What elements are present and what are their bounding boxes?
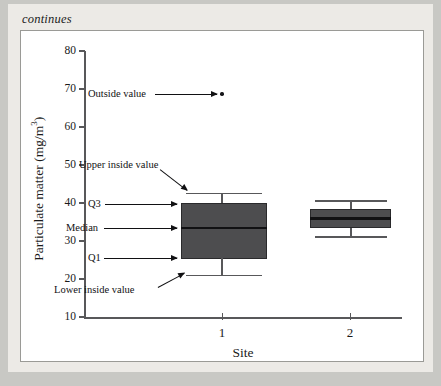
- y-tick-60: [79, 126, 85, 127]
- y-tick-label-30-wrap: 30: [46, 235, 76, 247]
- annotation-label-median: Median: [66, 223, 98, 234]
- y-tick-label-70: 70: [50, 83, 76, 95]
- y-axis-title-main: Particulate matter (mg/m: [31, 126, 46, 261]
- x-tick-2: [350, 313, 351, 320]
- y-tick-label-30: 30: [50, 235, 76, 247]
- x-axis-line: [84, 317, 402, 319]
- y-tick-label-50-wrap: 50: [46, 159, 76, 171]
- box-site-1: [181, 203, 267, 259]
- y-axis-title-exponent: 3: [29, 121, 39, 126]
- median-line-site-2: [310, 217, 391, 219]
- upper-whisker-cap-site-1: [186, 193, 262, 195]
- annotation-label-q3: Q3: [88, 199, 101, 210]
- median-line-site-1: [181, 227, 267, 229]
- outlier-point-site-1: [220, 92, 223, 95]
- y-tick-20: [79, 278, 85, 279]
- x-tick-label-1: 1: [202, 325, 242, 341]
- y-tick-label-70-wrap: 70: [46, 83, 76, 95]
- y-tick-label-60: 60: [50, 121, 76, 133]
- y-tick-label-40: 40: [50, 197, 76, 209]
- figure-page: continues 10 20 30 40 50 60: [0, 0, 441, 386]
- annotation-arrow-upper-inside-value: [160, 169, 188, 191]
- y-tick-label-10: 10: [50, 311, 76, 323]
- y-tick-label-50: 50: [50, 159, 76, 171]
- boxplot-chart: 10 20 30 40 50 60 70 80 1: [0, 0, 441, 386]
- x-tick-1: [222, 313, 223, 320]
- lower-whisker-stem-site-1: [221, 258, 223, 275]
- annotation-arrow-q3: [105, 204, 177, 205]
- y-axis-title: Particulate matter (mg/m3): [29, 89, 47, 289]
- y-tick-label-40-wrap: 40: [46, 197, 76, 209]
- annotation-label-outside-value: Outside value: [88, 89, 146, 100]
- annotation-label-q1: Q1: [88, 253, 101, 264]
- y-tick-80: [79, 50, 85, 51]
- annotation-label-upper-inside-value: Upper inside value: [79, 160, 158, 171]
- y-tick-10: [79, 316, 85, 317]
- annotation-arrow-lower-inside-value: [158, 273, 185, 288]
- y-tick-40: [79, 202, 85, 203]
- x-axis-title: Site: [84, 345, 402, 361]
- y-tick-label-20: 20: [50, 273, 76, 285]
- annotation-label-lower-inside-value: Lower inside value: [54, 285, 134, 296]
- x-tick-label-2: 2: [330, 325, 370, 341]
- lower-whisker-cap-site-1: [186, 275, 262, 277]
- annotation-arrow-outside-value: [155, 94, 217, 95]
- y-axis-title-tail: ): [31, 117, 46, 122]
- y-tick-label-20-wrap: 20: [46, 273, 76, 285]
- annotation-arrow-median: [104, 228, 177, 229]
- annotation-arrow-q1: [104, 258, 177, 259]
- lower-whisker-cap-site-2: [315, 236, 387, 238]
- y-tick-label-80-wrap: 80: [46, 45, 76, 57]
- y-tick-label-10-wrap: 10: [46, 311, 76, 323]
- upper-whisker-stem-site-1: [221, 194, 223, 204]
- y-tick-label-60-wrap: 60: [46, 121, 76, 133]
- y-tick-70: [79, 88, 85, 89]
- y-tick-label-80: 80: [50, 45, 76, 57]
- y-tick-30: [79, 240, 85, 241]
